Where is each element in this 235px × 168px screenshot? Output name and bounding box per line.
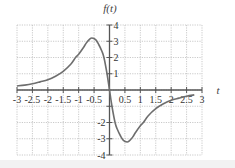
y-tick-label: -2 — [97, 117, 105, 128]
footer-band — [0, 160, 235, 168]
y-tick-label: 2 — [114, 52, 119, 63]
x-tick-label: 0.5 — [119, 94, 132, 105]
y-tick-label: -4 — [97, 150, 105, 161]
x-axis-title: t — [216, 84, 220, 96]
x-tick-label: 3 — [200, 94, 205, 105]
x-tick-label: -1.5 — [55, 94, 71, 105]
x-tick-label: -2.5 — [24, 94, 40, 105]
function-plot: -3-2.5-2-1.5-1-0.50.511.522.531234-2-3-4… — [0, 0, 235, 168]
x-tick-label: -1 — [74, 94, 82, 105]
y-axis-title: f(t) — [103, 2, 117, 15]
x-tick-label: 1 — [138, 94, 143, 105]
x-tick-label: -2 — [44, 94, 52, 105]
x-tick-label: 1.5 — [150, 94, 163, 105]
x-tick-label: -0.5 — [86, 94, 102, 105]
y-tick-label: 1 — [114, 68, 119, 79]
y-tick-label: -3 — [97, 133, 105, 144]
x-tick-label: -3 — [13, 94, 21, 105]
y-tick-label: 4 — [114, 20, 119, 31]
y-tick-label: 3 — [114, 36, 119, 47]
